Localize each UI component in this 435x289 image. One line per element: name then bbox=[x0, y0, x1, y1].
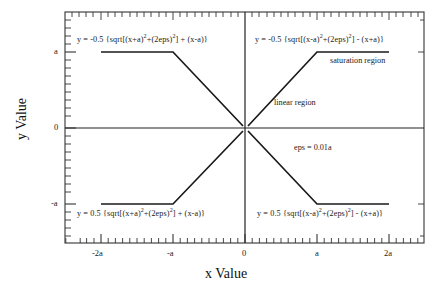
x-tick-label-2a: 2a bbox=[384, 249, 392, 258]
formula-top-left: y = -0.5 {sqrt[(x+a)2+(2eps)2] + (x-a)} bbox=[77, 33, 208, 44]
formula-top-left-prefix: y = -0.5 {sqrt[(x+a) bbox=[77, 35, 144, 44]
x-axis-title: x Value bbox=[205, 267, 247, 281]
formula-top-left-mid: +(2eps) bbox=[147, 35, 173, 44]
annotation-eps-note: eps = 0.01a bbox=[294, 144, 332, 152]
formula-top-right-prefix: y = -0.5 {sqrt[(x-a) bbox=[255, 35, 320, 44]
formula-top-right: y = -0.5 {sqrt[(x-a)2+(2eps)2] - (x+a)} bbox=[255, 33, 384, 44]
y-axis-title: y Value bbox=[14, 98, 29, 140]
formula-bottom-right-suffix: ] - (x+a)} bbox=[351, 209, 383, 218]
formula-top-right-suffix: ] - (x+a)} bbox=[352, 35, 384, 44]
formula-bottom-left-suffix: ] + (x-a)} bbox=[173, 209, 205, 218]
annotation-linear-region: linear region bbox=[274, 99, 316, 107]
x-tick-label-a: a bbox=[315, 249, 319, 258]
formula-bottom-right-mid: +(2eps) bbox=[322, 209, 348, 218]
formula-bottom-right-prefix: y = 0.5 {sqrt[(x-a) bbox=[257, 209, 319, 218]
y-tick-label-zero: 0 bbox=[54, 123, 58, 132]
y-axis-title-wrapper: y Value bbox=[12, 74, 30, 164]
x-tick-label-zero: 0 bbox=[242, 249, 246, 258]
formula-top-left-suffix: ] + (x-a)} bbox=[176, 35, 208, 44]
x-tick-label-neg-2a: -2a bbox=[92, 249, 103, 258]
formula-bottom-left-mid: +(2eps) bbox=[144, 209, 170, 218]
chart-figure: y = -0.5 {sqrt[(x+a)2+(2eps)2] + (x-a)} … bbox=[0, 0, 435, 289]
formula-bottom-left: y = 0.5 {sqrt[(x+a)2+(2eps)2] + (x-a)} bbox=[77, 207, 205, 218]
y-tick-label-a: a bbox=[54, 47, 58, 56]
formula-bottom-left-prefix: y = 0.5 {sqrt[(x+a) bbox=[77, 209, 141, 218]
formula-top-right-mid: +(2eps) bbox=[323, 35, 349, 44]
formula-bottom-right: y = 0.5 {sqrt[(x-a)2+(2eps)2] - (x+a)} bbox=[257, 207, 383, 218]
annotation-saturation-region: saturation region bbox=[330, 57, 385, 65]
y-tick-label-neg-a: -a bbox=[51, 199, 58, 208]
x-tick-label-neg-a: -a bbox=[167, 249, 174, 258]
